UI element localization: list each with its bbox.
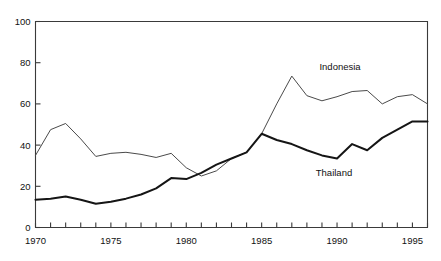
y-tick-label: 0: [25, 222, 30, 233]
y-tick-label: 20: [20, 181, 31, 192]
plot-frame: [36, 22, 428, 228]
x-axis-tick-labels: 197019751980198519901995: [25, 235, 423, 246]
y-tick-label: 60: [20, 98, 31, 109]
x-tick-label: 1985: [251, 235, 272, 246]
series-label-thailand: Thailand: [316, 167, 352, 178]
y-tick-label: 40: [20, 140, 31, 151]
axes-group: [36, 22, 428, 228]
x-tick-label: 1980: [176, 235, 197, 246]
series-line-thailand: [36, 121, 428, 203]
y-axis-ticks: [36, 22, 41, 228]
x-tick-label: 1970: [25, 235, 46, 246]
x-axis-ticks: [36, 223, 428, 228]
chart-canvas: 020406080100 197019751980198519901995 In…: [0, 0, 441, 261]
x-tick-label: 1990: [326, 235, 347, 246]
series-line-indonesia: [36, 76, 428, 176]
line-chart: 020406080100 197019751980198519901995 In…: [0, 0, 441, 261]
x-tick-label: 1995: [402, 235, 423, 246]
data-series-group: [36, 76, 428, 204]
series-label-indonesia: Indonesia: [319, 61, 361, 72]
x-tick-label: 1975: [100, 235, 121, 246]
y-tick-label: 80: [20, 57, 31, 68]
y-axis-tick-labels: 020406080100: [15, 16, 31, 233]
y-tick-label: 100: [15, 16, 31, 27]
series-annotations: IndonesiaThailand: [316, 61, 362, 178]
